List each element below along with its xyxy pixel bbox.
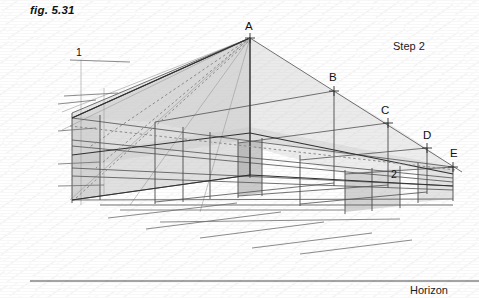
figure-canvas: fig. 5.31 Step 2 Horizon A B C D E 1 2 [0, 0, 479, 298]
number-label-one: 1 [76, 46, 82, 58]
figure-caption: fig. 5.31 [30, 4, 75, 16]
step-label: Step 2 [393, 40, 425, 52]
horizon-label: Horizon [410, 284, 448, 296]
number-label-two: 2 [391, 168, 397, 180]
point-label-e: E [450, 147, 458, 159]
point-label-a: A [245, 20, 253, 32]
point-label-c: C [381, 104, 389, 116]
point-label-d: D [423, 129, 431, 141]
point-label-b: B [329, 71, 337, 83]
